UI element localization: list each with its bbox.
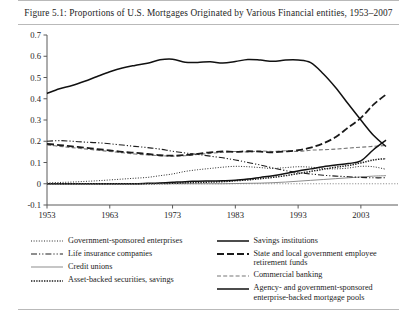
legend-swatch-dash-long [216,249,250,259]
x-tick-label: 2003 [352,210,369,220]
legend-item-agency-gse-mortgage-pools: Agency- and government-sponsored enterpr… [216,283,402,302]
y-tick-label: 0.2 [30,136,41,146]
legend-item-commercial-banking: Commercial banking [216,270,402,281]
legend-item-life-insurance-companies: Life insurance companies [30,248,216,259]
legend-label: Commercial banking [254,270,323,280]
legend-item-state-local-retirement-funds: State and local government employee reti… [216,248,402,267]
legend-label: State and local government employee reti… [254,248,402,267]
legend-label: Asset-backed securities, savings [68,275,174,285]
legend-swatch-dash-dot-dot [30,249,64,259]
x-tick-label: 1983 [227,210,244,220]
chart-legend: Government-sponsored enterprises Life in… [0,231,417,310]
y-tick-label: 0.3 [30,115,41,125]
legend-label: Savings institutions [254,235,318,245]
x-tick-label: 1963 [101,210,118,220]
figure-caption: Figure 5.1: Proportions of U.S. Mortgage… [0,1,417,24]
y-tick-label: 0.1 [30,158,41,168]
legend-column-right: Savings institutions State and local gov… [216,235,402,304]
y-tick-label: 0.5 [30,73,41,83]
legend-label: Credit unions [68,261,112,271]
legend-column-left: Government-sponsored enterprises Life in… [30,235,216,304]
y-tick-label: 0.4 [30,94,41,104]
series-line [47,59,386,146]
x-tick-label: 1953 [38,210,55,220]
legend-item-government-sponsored-enterprises: Government-sponsored enterprises [30,235,216,246]
line-chart: -0.100.10.20.30.40.50.60.719531963197319… [0,25,417,231]
x-tick-label: 1993 [290,210,307,220]
legend-label: Government-sponsored enterprises [68,235,182,245]
legend-swatch-dashed-light [216,271,250,281]
series-line [47,141,386,178]
legend-label: Life insurance companies [68,248,152,258]
y-tick-label: -0.1 [27,200,41,210]
legend-swatch-solid-light [30,262,64,272]
series-line [47,95,386,156]
legend-label: Agency- and government-sponsored enterpr… [254,283,402,302]
legend-swatch-dotted-heavy [30,276,64,286]
legend-item-credit-unions: Credit unions [30,261,216,272]
y-tick-label: 0.6 [30,51,41,61]
figure-container: Figure 5.1: Proportions of U.S. Mortgage… [0,0,417,335]
series-line [47,159,386,184]
y-tick-label: 0.7 [30,30,41,40]
y-tick-label: 0 [37,179,41,189]
chart-plot-area: -0.100.10.20.30.40.50.60.719531963197319… [0,25,417,231]
series-line [47,145,386,156]
legend-item-asset-backed-securities: Asset-backed securities, savings [30,275,216,286]
legend-item-savings-institutions: Savings institutions [216,235,402,246]
x-tick-label: 1973 [164,210,181,220]
legend-swatch-dotted-fine [30,236,64,246]
legend-swatch-solid-dark [216,236,250,246]
series-line [47,140,386,184]
legend-bottom-rule [18,309,399,310]
legend-swatch-solid-dark-2 [216,284,250,294]
